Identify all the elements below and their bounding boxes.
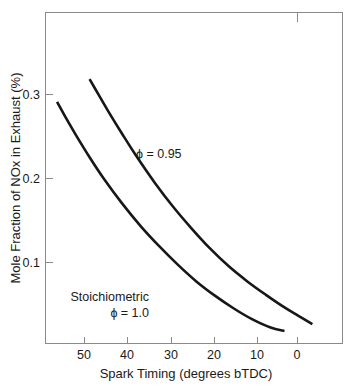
y-axis-ticks [46,95,53,263]
x-tick-label-20: 20 [207,348,221,362]
x-tick-labels: 50 40 30 20 10 0 [77,348,300,362]
annotation-stoichiometric: Stoichiometric [71,290,150,304]
curve-phi-0-95 [90,79,313,324]
x-tick-label-40: 40 [120,348,134,362]
x-tick-label-50: 50 [77,348,91,362]
x-tick-label-0: 0 [294,348,301,362]
y-tick-label-0-2: 0.2 [23,172,40,186]
x-axis-title: Spark Timing (degrees bTDC) [100,366,273,381]
y-axis-title: Mole Fraction of NOx in Exhaust (%) [8,73,23,284]
y-tick-label-0-3: 0.3 [23,88,40,102]
chart-figure: 50 40 30 20 10 0 0.3 0.2 0.1 Spark Timin… [0,0,347,386]
y-tick-labels: 0.3 0.2 0.1 [23,88,40,270]
x-tick-label-30: 30 [164,348,178,362]
x-tick-label-10: 10 [250,348,264,362]
y-tick-label-0-1: 0.1 [23,256,40,270]
annotation-phi-1-0: ϕ = 1.0 [110,306,149,320]
annotation-phi-0-95: ϕ = 0.95 [136,147,182,161]
nox-spark-timing-chart: 50 40 30 20 10 0 0.3 0.2 0.1 Spark Timin… [0,0,347,386]
